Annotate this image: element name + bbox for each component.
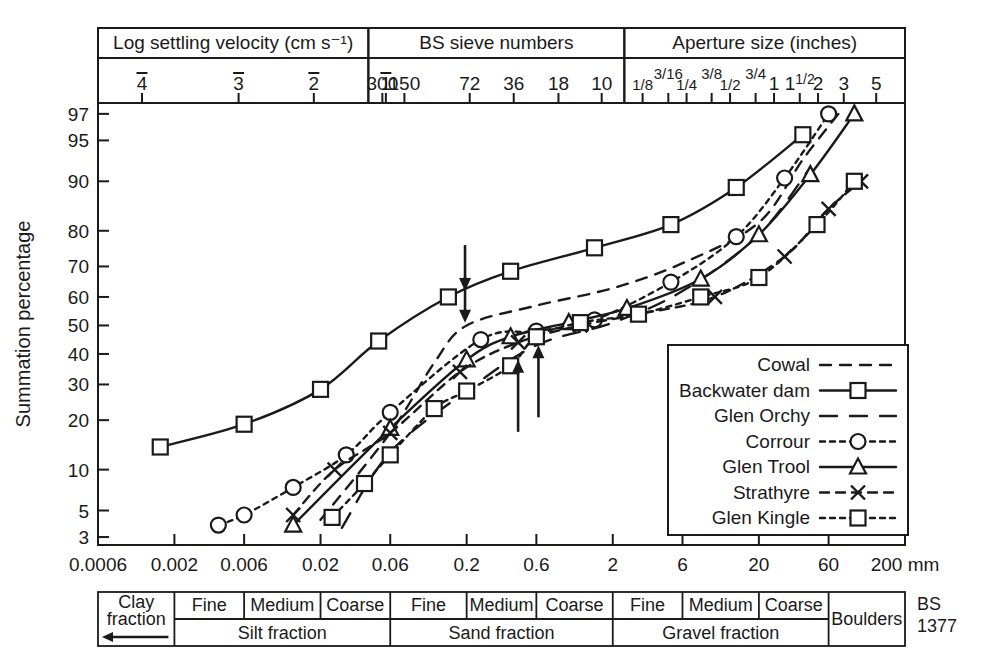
grade-label: Fine: [630, 595, 665, 615]
marker-square: [325, 510, 340, 525]
top-axis-tick-label: 5: [871, 73, 882, 94]
marker-square: [751, 270, 766, 285]
marker-square: [371, 334, 386, 349]
y-tick-label: 50: [68, 315, 89, 336]
top-axis-tick-label: 1/4: [676, 76, 697, 93]
x-tick-label: 2: [607, 554, 618, 575]
x-tick-label: 6: [677, 554, 688, 575]
y-tick-label: 80: [68, 221, 89, 242]
legend-label: Glen Orchy: [714, 405, 811, 426]
x-tick-label: 0.0006: [69, 554, 127, 575]
top-axis-tick-label: 3: [838, 73, 849, 94]
y-tick-label: 60: [68, 287, 89, 308]
marker-square: [573, 315, 588, 330]
marker-square: [587, 240, 602, 255]
top-axis-tick-label: 2: [813, 73, 824, 94]
top-axis-tick-label: 18: [548, 73, 569, 94]
fraction-numerator: 3: [654, 65, 662, 82]
marker-circle: [339, 447, 354, 462]
legend: CowalBackwater damGlen OrchyCorrourGlen …: [668, 345, 908, 535]
fraction-numerator: 3: [701, 65, 709, 82]
marker-square: [663, 217, 678, 232]
whole-number: 1: [785, 73, 796, 94]
particle-size-distribution-chart: 351020304050607080909597Summation percen…: [0, 0, 1003, 664]
legend-label: Glen Trool: [722, 456, 810, 477]
x-tick-label: 20: [748, 554, 769, 575]
marker-square: [529, 329, 544, 344]
top-axis-title-log-settling-velocity: Log settling velocity (cm s⁻¹): [113, 32, 353, 53]
arrow-down-2-head: [459, 310, 471, 323]
x-tick-label: 200 mm: [871, 554, 940, 575]
y-axis-title: Summation percentage: [12, 221, 34, 428]
clay-direction-arrow-head: [102, 632, 113, 642]
marker-square: [631, 307, 646, 322]
fraction-numerator: 1: [676, 76, 684, 93]
marker-square: [693, 289, 708, 304]
y-tick-label: 90: [68, 171, 89, 192]
top-axis-tick-label: 4: [137, 73, 148, 94]
marker-circle: [821, 106, 836, 121]
marker-square: [503, 264, 518, 279]
top-axis-tick-label: 10: [591, 73, 612, 94]
marker-circle: [286, 480, 301, 495]
marker-circle: [777, 171, 792, 186]
y-tick-label: 20: [68, 410, 89, 431]
fraction-denominator: 4: [758, 65, 766, 82]
top-axes-header: Log settling velocity (cm s⁻¹)4321BS sie…: [98, 28, 905, 103]
arrow-up-2-head: [532, 345, 544, 358]
marker-square: [851, 511, 866, 526]
y-tick-label: 3: [78, 527, 89, 548]
legend-label: Corrour: [746, 431, 811, 452]
legend-label: Backwater dam: [679, 380, 810, 401]
marker-square: [237, 417, 252, 432]
marker-square: [383, 447, 398, 462]
marker-square: [810, 217, 825, 232]
x-tick-label: 60: [818, 554, 839, 575]
top-axis-title-aperture-size-inches: Aperture size (inches): [672, 32, 857, 53]
fraction-numerator: 1: [720, 76, 728, 93]
standard-label-line1: BS: [917, 594, 941, 614]
x-tick-label: 0.2: [453, 554, 479, 575]
top-axis-tick-label: 11/2: [785, 71, 815, 94]
grade-label: Coarse: [546, 595, 604, 615]
top-axis-tick-label: 2: [309, 73, 320, 94]
top-axis-tick-label: 1: [769, 73, 780, 94]
grade-label: Coarse: [326, 595, 384, 615]
figure-root: 351020304050607080909597Summation percen…: [0, 0, 1003, 664]
marker-circle: [473, 332, 488, 347]
standard-label-line2: 1377: [917, 616, 957, 636]
legend-item-backwater-dam[interactable]: Backwater dam: [679, 380, 896, 401]
fraction-label: Silt fraction: [238, 623, 327, 643]
marker-circle: [383, 405, 398, 420]
top-axis-tick-label: 36: [503, 73, 524, 94]
marker-circle: [663, 275, 678, 290]
marker-circle: [211, 518, 226, 533]
marker-triangle: [693, 271, 709, 286]
top-axis-tick-label: 150: [389, 73, 421, 94]
y-tick-label: 95: [68, 130, 89, 151]
marker-square: [153, 439, 168, 454]
boulders-label: Boulders: [831, 609, 902, 629]
marker-square: [427, 401, 442, 416]
y-tick-label: 70: [68, 256, 89, 277]
fraction-denominator: 8: [645, 76, 653, 93]
fraction-label: Gravel fraction: [662, 623, 779, 643]
x-tick-label: 0.02: [302, 554, 339, 575]
clay-label-line2: fraction: [107, 609, 166, 629]
marker-square: [795, 127, 810, 142]
marker-circle: [237, 508, 252, 523]
grade-label: Coarse: [765, 595, 823, 615]
fraction-numerator: 1: [632, 76, 640, 93]
top-axis-title-bs-sieve-numbers: BS sieve numbers: [419, 32, 573, 53]
top-axis-tick-label: 3/4: [745, 65, 766, 82]
marker-circle: [851, 434, 866, 449]
top-axis-tick-label: 1/2: [720, 76, 741, 93]
marker-square: [847, 174, 862, 189]
grade-label: Medium: [689, 595, 753, 615]
fraction-label: Sand fraction: [448, 623, 554, 643]
y-axis: 351020304050607080909597Summation percen…: [12, 104, 109, 548]
x-tick-label: 0.006: [220, 554, 268, 575]
marker-square: [441, 289, 456, 304]
fraction-numerator: 3: [745, 65, 753, 82]
grade-label: Medium: [469, 595, 533, 615]
